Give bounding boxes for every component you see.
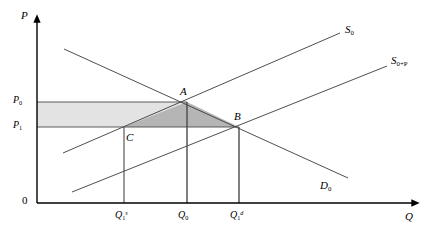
figure-canvas: P Q 0 P0 P1 Q1s Q0 Q1d S0 S0+P D0 A B C <box>0 0 430 237</box>
quantity-tick-q1d: Q1d <box>230 210 243 221</box>
supply-curve-original <box>63 33 340 153</box>
supply-shifted-label-sub: 0+P <box>397 60 408 67</box>
demand-curve-label: D0 <box>320 180 331 193</box>
point-label-a: A <box>180 86 187 97</box>
demand-label-sub: 0 <box>328 185 331 192</box>
x-axis-label: Q <box>405 211 413 222</box>
quantity-tick-q1s: Q1s <box>115 210 128 221</box>
price-tick-p1-sub: 1 <box>19 124 22 131</box>
price-tick-p0: P0 <box>13 95 22 106</box>
point-label-b: B <box>234 111 241 122</box>
price-tick-p0-sub: 0 <box>19 99 22 106</box>
price-tick-p1: P1 <box>13 120 22 131</box>
quantity-tick-q0-sub: 0 <box>185 214 188 221</box>
y-axis-label: P <box>21 10 28 21</box>
supply-original-label-sub: 0 <box>351 29 354 36</box>
point-label-c: C <box>126 132 133 143</box>
supply-demand-svg <box>0 0 430 237</box>
supply-curve-shifted-label: S0+P <box>391 55 408 68</box>
supply-curve-original-label: S0 <box>345 24 354 37</box>
demand-label-base: D <box>320 179 328 191</box>
quantity-tick-q1s-sup: s <box>125 209 127 216</box>
origin-label: 0 <box>22 195 28 206</box>
quantity-tick-q1d-sup: d <box>240 209 243 216</box>
quantity-tick-q0: Q0 <box>178 210 188 221</box>
